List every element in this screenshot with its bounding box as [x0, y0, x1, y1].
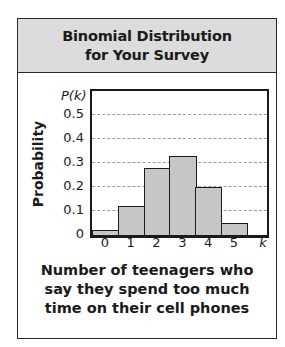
- chart-title: Binomial Distribution for Your Survey: [18, 19, 276, 73]
- plot-area: [90, 89, 269, 238]
- bar-k-2: [144, 168, 171, 235]
- x-axis-label-line-1: Number of teenagers who: [18, 261, 276, 280]
- chart-title-line-1: Binomial Distribution: [62, 27, 232, 46]
- y-variable-label: P(k): [61, 88, 87, 103]
- y-axis-label-container: Probability: [28, 99, 48, 229]
- gridline: [92, 138, 267, 139]
- x-tick-label: 3: [172, 235, 192, 250]
- y-axis-label: Probability: [30, 121, 46, 208]
- bar-k-4: [195, 187, 222, 235]
- x-tick-label: 1: [121, 235, 141, 250]
- chart-title-line-2: for Your Survey: [85, 46, 209, 65]
- x-tick-label: 2: [147, 235, 167, 250]
- bar-k-5: [221, 223, 248, 235]
- x-tick-label: 0: [95, 235, 115, 250]
- x-tick-label: 5: [224, 235, 244, 250]
- y-tick-label: 0.4: [54, 130, 84, 145]
- gridline: [92, 114, 267, 115]
- y-tick-label: 0: [54, 226, 84, 241]
- x-tick-label: 4: [198, 235, 218, 250]
- x-axis-label: Number of teenagers who say they spend t…: [18, 261, 276, 318]
- y-tick-label: 0.2: [54, 178, 84, 193]
- y-tick-label: 0.5: [54, 106, 84, 121]
- chart-frame: Binomial Distribution for Your Survey Pr…: [17, 18, 277, 339]
- y-tick-label: 0.3: [54, 154, 84, 169]
- x-axis-label-line-2: say they spend too much: [18, 280, 276, 299]
- x-axis-label-line-3: time on their cell phones: [18, 299, 276, 318]
- y-tick-label: 0.1: [54, 202, 84, 217]
- bar-k-3: [169, 156, 196, 235]
- bar-k-1: [118, 206, 145, 235]
- x-variable-label: k: [253, 235, 273, 250]
